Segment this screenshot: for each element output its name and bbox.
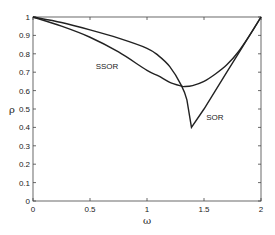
- y-tick-label: 0.2: [19, 160, 31, 169]
- y-tick-label: 1: [26, 13, 31, 22]
- curve-labels: SSORSOR: [96, 62, 224, 123]
- x-tick-label: 1.5: [198, 205, 210, 214]
- y-tick-label: 0.4: [19, 123, 31, 132]
- x-axis-ticks: 00.511.52: [31, 17, 264, 214]
- y-tick-label: 0.8: [19, 50, 31, 59]
- x-tick-label: 1: [145, 205, 150, 214]
- x-tick-label: 0.5: [84, 205, 96, 214]
- y-tick-label: 0: [26, 197, 31, 206]
- y-tick-label: 0.1: [19, 179, 31, 188]
- x-axis-label: ω: [143, 215, 151, 226]
- plot-box: [33, 17, 261, 201]
- y-tick-label: 0.7: [19, 68, 31, 77]
- y-tick-label: 0.5: [19, 105, 31, 114]
- series-lines: [33, 17, 261, 127]
- y-axis-ticks: 00.10.20.30.40.50.60.70.80.91: [19, 13, 261, 206]
- curve-label-ssor: SSOR: [96, 62, 119, 71]
- spectral-radius-chart: 00.511.52 00.10.20.30.40.50.60.70.80.91 …: [0, 0, 275, 235]
- y-tick-label: 0.9: [19, 31, 31, 40]
- y-tick-label: 0.6: [19, 87, 31, 96]
- x-tick-label: 0: [31, 205, 36, 214]
- series-line-sor: [33, 17, 261, 127]
- x-tick-label: 2: [259, 205, 264, 214]
- y-tick-label: 0.3: [19, 142, 31, 151]
- series-line-ssor: [33, 17, 261, 87]
- curve-label-sor: SOR: [206, 113, 224, 122]
- y-axis-label: ρ: [9, 104, 15, 115]
